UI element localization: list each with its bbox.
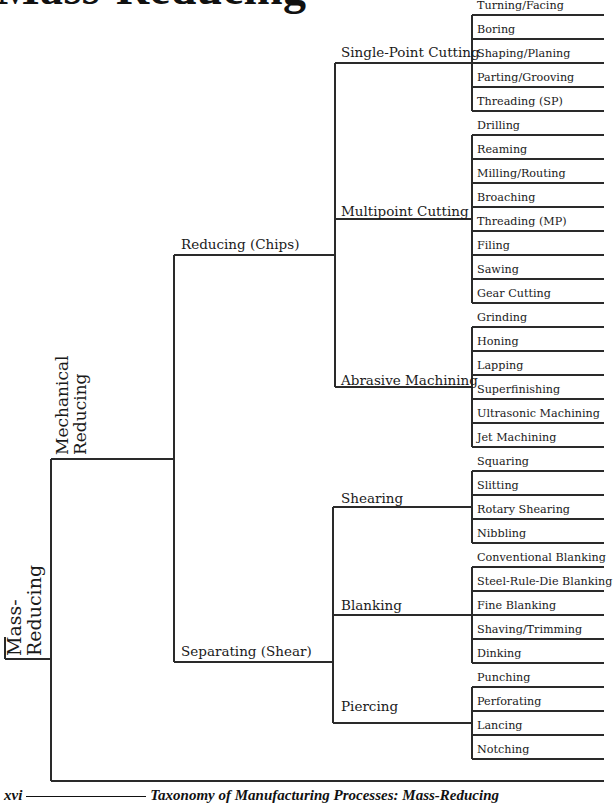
page-number: xvi (4, 787, 22, 803)
root-node-mass-reducing: Mass- Reducing (4, 565, 44, 656)
root-label-line2: Reducing (24, 565, 44, 656)
node-single-point-cutting: Single-Point Cutting (341, 44, 480, 60)
leaf-item: Turning/Facing (477, 0, 564, 13)
leaf-item: Shaving/Trimming (477, 623, 582, 637)
leaf-item: Reaming (477, 143, 527, 157)
node-multipoint-cutting: Multipoint Cutting (341, 203, 469, 219)
level1-label-line2: Reducing (71, 355, 89, 455)
node-piercing: Piercing (341, 698, 398, 714)
leaf-item: Gear Cutting (477, 287, 551, 301)
leaf-item: Drilling (477, 119, 520, 133)
level1-label-line1: Mechanical (53, 355, 71, 455)
leaf-item: Jet Machining (477, 431, 556, 445)
leaf-item: Filing (477, 239, 510, 253)
leaf-item: Fine Blanking (477, 599, 556, 613)
leaf-item: Lapping (477, 359, 523, 373)
leaf-item: Grinding (477, 311, 527, 325)
leaf-item: Conventional Blanking (477, 551, 606, 565)
leaf-item: Nibbling (477, 527, 526, 541)
leaf-item: Rotary Shearing (477, 503, 570, 517)
leaf-item: Perforating (477, 695, 541, 709)
leaf-item: Dinking (477, 647, 521, 661)
leaf-item: Punching (477, 671, 530, 685)
leaf-item: Squaring (477, 455, 529, 469)
footer-caption: Taxonomy of Manufacturing Processes: Mas… (150, 787, 499, 803)
leaf-item: Steel-Rule-Die Blanking (477, 575, 613, 589)
leaf-item: Broaching (477, 191, 535, 205)
node-shearing: Shearing (341, 490, 403, 506)
node-blanking: Blanking (341, 597, 402, 613)
leaf-item: Shaping/Planing (477, 47, 570, 61)
leaf-item: Lancing (477, 719, 523, 733)
leaf-item: Superfinishing (477, 383, 560, 397)
node-separating-shear: Separating (Shear) (181, 643, 312, 659)
leaf-item: Threading (MP) (477, 215, 567, 229)
leaf-item: Honing (477, 335, 519, 349)
page-footer: xviTaxonomy of Manufacturing Processes: … (4, 787, 499, 804)
node-mechanical-reducing: Mechanical Reducing (53, 355, 89, 455)
leaf-item: Milling/Routing (477, 167, 566, 181)
node-reducing-chips: Reducing (Chips) (181, 236, 299, 252)
leaf-item: Notching (477, 743, 529, 757)
footer-rule (26, 796, 146, 797)
leaf-item: Ultrasonic Machining (477, 407, 600, 421)
leaf-item: Parting/Grooving (477, 71, 574, 85)
leaf-item: Threading (SP) (477, 95, 563, 109)
leaf-item: Slitting (477, 479, 519, 493)
root-label-line1: Mass- (4, 565, 24, 656)
leaf-item: Boring (477, 23, 515, 37)
node-abrasive-machining: Abrasive Machining (341, 372, 478, 388)
leaf-item: Sawing (477, 263, 519, 277)
